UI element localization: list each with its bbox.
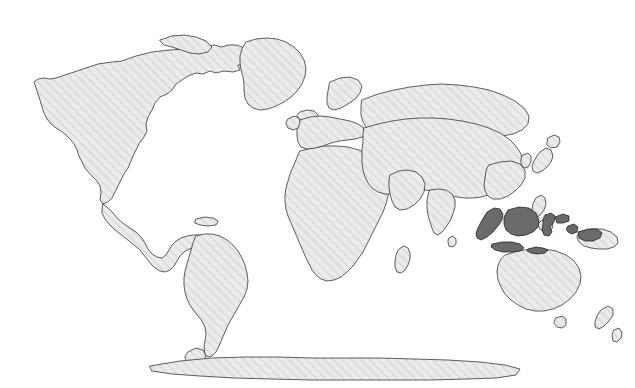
highlight-java [491,242,524,252]
land-sri-lanka [448,236,456,247]
world-map-figure [0,0,635,388]
world-map-svg [0,0,635,388]
highlight-kalimantan [504,207,539,236]
